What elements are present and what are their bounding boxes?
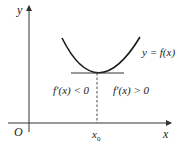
x0-label: x0 (91, 128, 101, 143)
curve-label: y = f(x) (141, 46, 175, 59)
derivative-extremum-diagram: y x O x0 y = f(x) f′(x) < 0 f′(x) > 0 (0, 0, 180, 159)
y-axis-label: y (16, 3, 23, 17)
origin-label: O (14, 125, 23, 139)
right-region-label: f′(x) > 0 (113, 84, 150, 97)
left-region-label: f′(x) < 0 (53, 84, 90, 97)
x-axis-label: x (162, 127, 169, 141)
curve-f (62, 37, 140, 73)
